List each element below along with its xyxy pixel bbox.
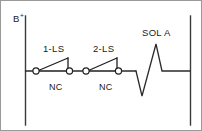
contact2-type-label: NC [99, 82, 113, 92]
ladder-diagram-canvas: B + 1-LS NC 2-LS NC SOL A [0, 0, 202, 131]
contact2-blade-diagonal [89, 58, 118, 71]
supply-rail-polarity-label: + [20, 12, 24, 19]
contact2-left-terminal [83, 68, 89, 74]
contact1-left-terminal [33, 68, 39, 74]
contact2-tag-label: 2-LS [93, 43, 114, 54]
contact1-right-terminal [66, 68, 72, 74]
ladder-diagram-svg: B + 1-LS NC 2-LS NC SOL A [0, 0, 202, 131]
contact-2-ls [83, 58, 122, 74]
supply-rail-label: B [13, 13, 19, 24]
contact2-right-terminal [115, 68, 121, 74]
contact1-blade-diagonal [39, 58, 69, 71]
solenoid-coil-symbol [136, 44, 190, 96]
contact1-type-label: NC [49, 82, 63, 92]
solenoid-tag-label: SOL A [142, 27, 171, 38]
contact-1-ls [33, 58, 73, 74]
contact1-tag-label: 1-LS [43, 43, 64, 54]
